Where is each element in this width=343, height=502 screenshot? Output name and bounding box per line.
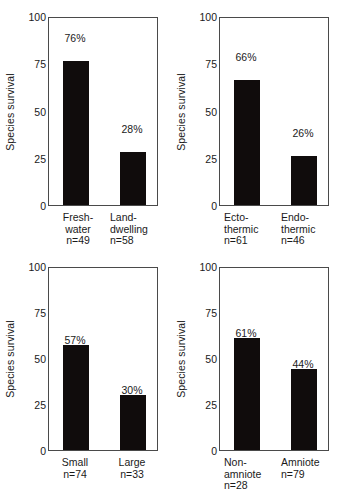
bar-ectothermic: [234, 80, 260, 205]
x-category-sample-size: n=79: [281, 469, 320, 481]
bar-land-dwelling: [120, 152, 146, 205]
x-category-line1: Small: [62, 457, 88, 469]
x-category-amniote: Amniote n=79: [281, 457, 320, 480]
x-category-sample-size: n=33: [119, 469, 146, 481]
bar-value-label-small: 57%: [64, 335, 85, 346]
y-axis-ticks: 100 75 50 25 0: [14, 267, 46, 451]
x-category-line1: Endo-: [281, 212, 315, 224]
x-category-sample-size: n=74: [62, 469, 88, 481]
plot-frame: [48, 17, 158, 206]
figure-four-panel-bar-charts: Species survival 100 75 50 25 0 76% 28% …: [0, 0, 343, 502]
bar-value-label-amniote: 44%: [292, 359, 313, 370]
y-tick-50: 50: [34, 106, 46, 117]
y-tick-75: 75: [205, 308, 217, 319]
x-category-line1: Land-: [110, 212, 148, 224]
x-category-line1: Amniote: [281, 457, 320, 469]
y-tick-75: 75: [34, 59, 46, 70]
y-tick-100: 100: [28, 262, 46, 273]
y-axis-ticks: 100 75 50 25 0: [14, 17, 46, 206]
y-tick-50: 50: [205, 354, 217, 365]
x-category-sample-size: n=28: [224, 480, 261, 492]
bar-large: [120, 395, 146, 450]
y-tick-0: 0: [211, 446, 217, 457]
x-category-line1: Ecto-: [224, 212, 258, 224]
x-category-non-amniote: Non- amniote n=28: [224, 457, 261, 492]
y-tick-75: 75: [205, 59, 217, 70]
y-tick-50: 50: [34, 354, 46, 365]
x-category-freshwater: Fresh- water n=49: [63, 212, 93, 247]
bar-value-label-non-amniote: 61%: [235, 328, 256, 339]
x-category-ectothermic: Ecto- thermic n=61: [224, 212, 258, 247]
x-category-endothermic: Endo- thermic n=46: [281, 212, 315, 247]
y-tick-25: 25: [34, 400, 46, 411]
panel-small-vs-large: Species survival 100 75 50 25 0 57% 30% …: [0, 245, 171, 502]
bar-value-label-endothermic: 26%: [292, 128, 313, 139]
y-tick-100: 100: [199, 12, 217, 23]
x-category-large: Large n=33: [119, 457, 146, 480]
y-tick-0: 0: [211, 201, 217, 212]
y-tick-100: 100: [28, 12, 46, 23]
x-category-line1: Non-: [224, 457, 261, 469]
y-axis-ticks: 100 75 50 25 0: [185, 17, 217, 206]
plot-frame: [219, 17, 329, 206]
y-tick-75: 75: [34, 308, 46, 319]
y-tick-25: 25: [205, 153, 217, 164]
x-category-line1: Fresh-: [63, 212, 93, 224]
y-tick-100: 100: [199, 262, 217, 273]
bar-amniote: [291, 369, 317, 450]
panel-freshwater-vs-land: Species survival 100 75 50 25 0 76% 28% …: [0, 0, 171, 245]
bar-value-label-land-dwelling: 28%: [121, 124, 142, 135]
bar-value-label-freshwater: 76%: [64, 33, 85, 44]
bar-small: [63, 345, 89, 450]
x-category-land-dwelling: Land- dwelling n=58: [110, 212, 148, 247]
bar-endothermic: [291, 156, 317, 205]
y-tick-25: 25: [205, 400, 217, 411]
x-category-small: Small n=74: [62, 457, 88, 480]
bar-value-label-large: 30%: [121, 385, 142, 396]
y-tick-0: 0: [40, 201, 46, 212]
y-tick-25: 25: [34, 153, 46, 164]
panel-nonamniote-vs-amniote: Species survival 100 75 50 25 0 61% 44% …: [171, 245, 343, 502]
x-category-line1: Large: [119, 457, 146, 469]
plot-frame: [48, 267, 158, 451]
bar-non-amniote: [234, 338, 260, 450]
y-axis-ticks: 100 75 50 25 0: [185, 267, 217, 451]
y-tick-0: 0: [40, 446, 46, 457]
y-tick-50: 50: [205, 106, 217, 117]
bar-value-label-ectothermic: 66%: [235, 52, 256, 63]
bar-freshwater: [63, 61, 89, 205]
panel-ectothermic-vs-endothermic: Species survival 100 75 50 25 0 66% 26% …: [171, 0, 343, 245]
